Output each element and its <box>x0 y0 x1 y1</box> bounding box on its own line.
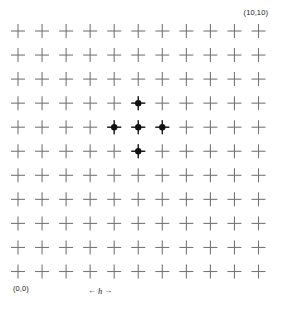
grid-spacing-indicator: ← h → <box>88 287 112 296</box>
grid-canvas <box>0 0 282 309</box>
grid-stencil-figure: (10,10) (0,0) ← h → <box>0 0 282 309</box>
arrow-right-icon: → <box>104 287 112 295</box>
stencil-point <box>135 148 141 154</box>
spacing-symbol-label: h <box>97 287 103 296</box>
stencil-point <box>111 124 117 130</box>
stencil-point <box>135 124 141 130</box>
max-coordinate-label: (10,10) <box>244 8 268 17</box>
arrow-left-icon: ← <box>88 287 96 295</box>
stencil-point-markers <box>107 96 169 158</box>
stencil-point <box>159 124 165 130</box>
stencil-point <box>135 100 141 106</box>
origin-coordinate-label: (0,0) <box>13 284 29 293</box>
